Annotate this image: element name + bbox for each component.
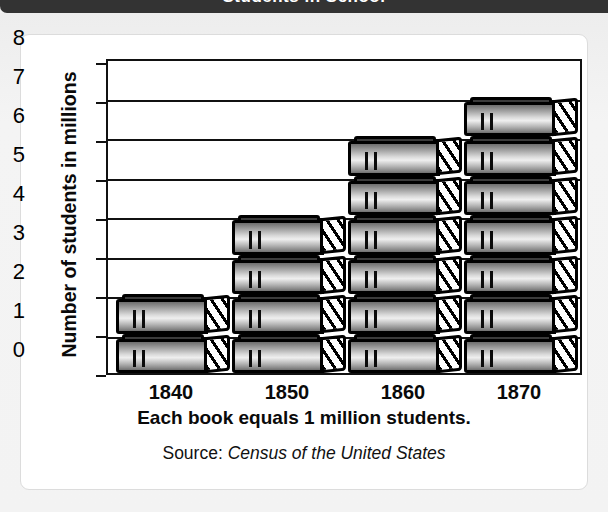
book-band xyxy=(374,231,377,249)
book-band xyxy=(133,350,136,368)
book-band xyxy=(249,231,252,249)
book-band xyxy=(490,113,493,131)
book-icon xyxy=(348,334,462,374)
book-stack-1850 xyxy=(232,215,346,373)
book-band xyxy=(481,271,484,289)
book-icon xyxy=(232,334,346,374)
y-tick-mark-3 xyxy=(96,258,106,260)
book-band xyxy=(133,310,136,328)
book-band xyxy=(490,271,493,289)
book-band xyxy=(490,350,493,368)
book-icon xyxy=(464,255,578,295)
book-cover xyxy=(116,339,208,374)
chart-source: Source: Census of the United States xyxy=(21,443,587,464)
y-tick-mark-4 xyxy=(96,219,106,221)
book-pages xyxy=(436,176,462,214)
book-icon xyxy=(464,294,578,334)
y-tick-label-0: 0 xyxy=(0,339,25,361)
book-band xyxy=(481,113,484,131)
book-band xyxy=(365,192,368,210)
book-band xyxy=(365,231,368,249)
book-cover xyxy=(464,339,556,374)
book-icon xyxy=(348,176,462,216)
x-tick-label-1860: 1860 xyxy=(346,381,460,404)
book-cover xyxy=(464,220,556,255)
book-band xyxy=(374,192,377,210)
y-axis-title: Number of students in millions xyxy=(58,65,81,365)
book-icon xyxy=(464,97,578,137)
y-tick-label-3: 3 xyxy=(0,222,25,244)
figure-card: Number of students in millions 0 1 2 3 4… xyxy=(20,34,588,490)
book-pages xyxy=(436,137,462,175)
book-band xyxy=(258,310,261,328)
book-band xyxy=(249,350,252,368)
plot-area xyxy=(106,59,582,375)
book-pages xyxy=(320,295,346,333)
book-cover xyxy=(464,181,556,216)
book-icon xyxy=(232,255,346,295)
book-pages xyxy=(552,216,578,254)
page-banner: Students in School xyxy=(0,0,608,13)
book-band xyxy=(490,310,493,328)
y-tick-mark-2 xyxy=(96,297,106,299)
source-title: Census of the United States xyxy=(228,443,446,463)
book-pages xyxy=(552,255,578,293)
book-band xyxy=(365,271,368,289)
book-band xyxy=(481,231,484,249)
book-pages xyxy=(320,216,346,254)
y-tick-label-6: 6 xyxy=(0,105,25,127)
plot-inner xyxy=(108,61,580,373)
book-icon xyxy=(348,255,462,295)
book-band xyxy=(490,152,493,170)
book-band xyxy=(481,350,484,368)
y-tick-mark-8 xyxy=(96,63,106,65)
book-cover xyxy=(232,339,324,374)
book-pages xyxy=(436,216,462,254)
book-icon xyxy=(232,215,346,255)
book-pages xyxy=(552,176,578,214)
book-cover xyxy=(348,299,440,334)
book-pages xyxy=(436,295,462,333)
book-band xyxy=(365,350,368,368)
book-icon xyxy=(232,294,346,334)
book-cover xyxy=(348,339,440,374)
book-band xyxy=(258,271,261,289)
book-band xyxy=(249,271,252,289)
book-icon xyxy=(116,334,230,374)
book-band xyxy=(374,271,377,289)
book-band xyxy=(374,310,377,328)
book-pages xyxy=(436,255,462,293)
book-icon xyxy=(464,136,578,176)
book-band xyxy=(490,231,493,249)
y-tick-label-4: 4 xyxy=(0,183,25,205)
book-icon xyxy=(348,136,462,176)
book-band xyxy=(490,192,493,210)
book-stack-1870 xyxy=(464,97,578,374)
book-pages xyxy=(552,334,578,372)
source-label: Source: xyxy=(162,443,222,463)
book-icon xyxy=(464,176,578,216)
book-band xyxy=(142,310,145,328)
book-stack-1860 xyxy=(348,136,462,373)
x-tick-label-1850: 1850 xyxy=(230,381,344,404)
book-cover xyxy=(348,260,440,295)
book-cover xyxy=(116,299,208,334)
book-icon xyxy=(348,215,462,255)
book-cover xyxy=(232,299,324,334)
book-band xyxy=(481,192,484,210)
y-tick-mark-1 xyxy=(96,336,106,338)
book-cover xyxy=(464,260,556,295)
book-band xyxy=(481,310,484,328)
y-tick-mark-0 xyxy=(96,375,106,377)
y-tick-mark-6 xyxy=(96,141,106,143)
book-icon xyxy=(464,334,578,374)
book-pages xyxy=(320,255,346,293)
book-band xyxy=(374,152,377,170)
book-cover xyxy=(232,220,324,255)
book-band xyxy=(258,231,261,249)
book-pages xyxy=(552,295,578,333)
banner-title: Students in School xyxy=(0,0,608,7)
book-pages xyxy=(320,334,346,372)
book-cover xyxy=(232,260,324,295)
book-band xyxy=(481,152,484,170)
